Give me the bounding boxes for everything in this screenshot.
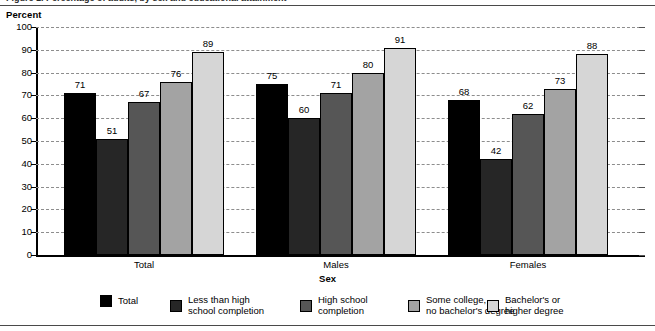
y-axis-tick-label: 10 bbox=[8, 226, 32, 237]
legend-label: Less than high school completion bbox=[188, 295, 264, 316]
bar bbox=[448, 100, 480, 255]
bar bbox=[320, 93, 352, 255]
chart-legend: TotalLess than high school completionHig… bbox=[0, 295, 655, 323]
y-axis-title: Percent bbox=[6, 9, 42, 20]
legend-item[interactable]: Bachelor's or higher degree bbox=[487, 295, 564, 316]
legend-label: High school completion bbox=[318, 295, 368, 316]
bar-value-label: 75 bbox=[250, 70, 294, 81]
y-axis-tick-right bbox=[639, 27, 645, 28]
bar bbox=[576, 54, 608, 255]
bar bbox=[192, 52, 224, 255]
y-axis-tick-right bbox=[639, 73, 645, 74]
y-axis-tick-label: 50 bbox=[8, 135, 32, 146]
x-axis-title: Sex bbox=[0, 273, 655, 284]
y-axis-tick-labels: 0102030405060708090100 bbox=[6, 27, 32, 256]
y-axis-tick-label: 20 bbox=[8, 203, 32, 214]
bar bbox=[544, 89, 576, 255]
legend-label: Total bbox=[118, 296, 138, 307]
gridline bbox=[36, 73, 645, 74]
legend-swatch bbox=[300, 300, 312, 312]
x-axis-group-label: Females bbox=[418, 259, 638, 270]
y-axis-tick-right bbox=[639, 187, 645, 188]
bar bbox=[480, 159, 512, 255]
y-axis-tick-label: 60 bbox=[8, 112, 32, 123]
bar-value-label: 71 bbox=[58, 79, 102, 90]
x-axis-line bbox=[36, 255, 645, 257]
y-axis-tick-label: 90 bbox=[8, 44, 32, 55]
bar-value-label: 91 bbox=[378, 34, 422, 45]
legend-swatch bbox=[100, 295, 112, 307]
figure-root: Figure 1. Percentage of adults, by sex a… bbox=[0, 0, 655, 331]
cut-off-title-text: Figure 1. Percentage of adults, by sex a… bbox=[6, 0, 287, 3]
y-axis-tick bbox=[31, 164, 36, 165]
y-axis-tick bbox=[31, 73, 36, 74]
legend-swatch bbox=[408, 300, 420, 312]
gridline bbox=[36, 27, 645, 28]
y-axis-tick bbox=[31, 255, 36, 256]
legend-divider bbox=[0, 325, 655, 326]
legend-swatch bbox=[170, 300, 182, 312]
bar-value-label: 68 bbox=[442, 86, 486, 97]
y-axis-tick bbox=[31, 50, 36, 51]
bar bbox=[384, 48, 416, 255]
y-axis-tick bbox=[31, 118, 36, 119]
y-axis-tick bbox=[31, 209, 36, 210]
legend-item[interactable]: Less than high school completion bbox=[170, 295, 264, 316]
y-axis-tick-right bbox=[639, 164, 645, 165]
bar bbox=[96, 139, 128, 255]
bar bbox=[128, 102, 160, 255]
y-axis-tick-right bbox=[639, 50, 645, 51]
legend-swatch bbox=[487, 300, 499, 312]
bar bbox=[352, 73, 384, 255]
y-axis-tick-right bbox=[639, 95, 645, 96]
y-axis-tick-right bbox=[639, 232, 645, 233]
y-axis-tick-label: 40 bbox=[8, 158, 32, 169]
y-axis-tick-right bbox=[639, 118, 645, 119]
y-axis-tick-right bbox=[639, 255, 645, 256]
x-axis-group-label: Total bbox=[34, 259, 254, 270]
y-axis-tick-label: 0 bbox=[8, 249, 32, 260]
title-divider bbox=[0, 5, 655, 6]
plot-area: 715167768975607180916842627388 bbox=[36, 27, 645, 255]
y-axis-tick bbox=[31, 141, 36, 142]
bar bbox=[288, 118, 320, 255]
legend-item[interactable]: High school completion bbox=[300, 295, 368, 316]
y-axis-tick-label: 100 bbox=[8, 21, 32, 32]
x-axis-group-label: Males bbox=[226, 259, 446, 270]
y-axis-tick bbox=[31, 187, 36, 188]
gridline bbox=[36, 50, 645, 51]
legend-item[interactable]: Total bbox=[100, 295, 138, 307]
y-axis-tick-right bbox=[639, 209, 645, 210]
y-axis-tick-label: 70 bbox=[8, 89, 32, 100]
bar-value-label: 89 bbox=[186, 38, 230, 49]
y-axis-tick bbox=[31, 27, 36, 28]
y-axis-tick-right bbox=[639, 141, 645, 142]
bar bbox=[160, 82, 192, 255]
bar bbox=[64, 93, 96, 255]
y-axis-tick-label: 80 bbox=[8, 67, 32, 78]
y-axis-tick bbox=[31, 232, 36, 233]
y-axis-tick-label: 30 bbox=[8, 181, 32, 192]
y-axis-tick bbox=[31, 95, 36, 96]
bar-value-label: 88 bbox=[570, 40, 614, 51]
bar bbox=[512, 114, 544, 255]
legend-label: Bachelor's or higher degree bbox=[505, 295, 564, 316]
